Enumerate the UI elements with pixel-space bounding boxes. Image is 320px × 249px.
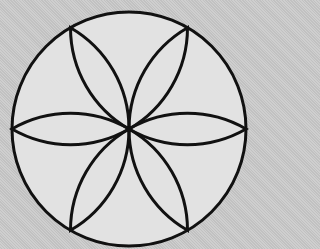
rosette-svg: [0, 0, 259, 249]
rosette-diagram: [0, 0, 259, 249]
